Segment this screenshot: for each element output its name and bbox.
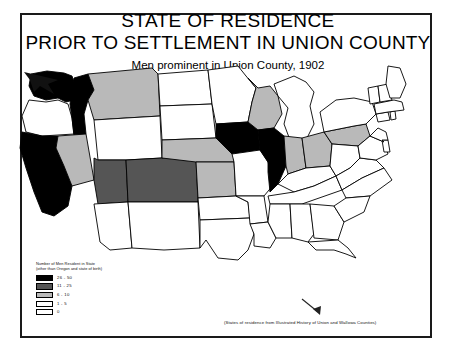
state-south-dakota[interactable] bbox=[160, 104, 216, 140]
legend-swatch bbox=[36, 309, 53, 315]
state-rhode-island[interactable] bbox=[390, 111, 396, 120]
state-florida[interactable] bbox=[308, 240, 356, 258]
legend-item[interactable]: 26 - 50 bbox=[36, 274, 166, 282]
state-new-mexico[interactable] bbox=[128, 202, 200, 250]
legend-range-label: 6 - 10 bbox=[57, 292, 70, 298]
state-utah[interactable] bbox=[94, 158, 128, 204]
state-arizona[interactable] bbox=[94, 202, 132, 250]
title-leader-arrow-northwest bbox=[24, 70, 64, 96]
legend-swatch bbox=[36, 275, 53, 281]
legend-item[interactable]: 6 - 10 bbox=[36, 291, 166, 299]
state-wyoming[interactable] bbox=[94, 116, 162, 160]
map-page: STATE OF RESIDENCE PRIOR TO SETTLEMENT I… bbox=[0, 0, 456, 356]
state-montana[interactable] bbox=[88, 68, 160, 120]
legend-item[interactable]: 0 bbox=[36, 308, 166, 316]
legend-swatch bbox=[36, 283, 53, 289]
legend-title-line-2: (other than Oregon and state of birth) bbox=[36, 267, 126, 272]
state-texas[interactable] bbox=[200, 218, 254, 260]
legend-range-label: 26 - 50 bbox=[57, 275, 72, 281]
legend-swatch bbox=[36, 292, 53, 298]
source-credit: (States of residence from Illustrated Hi… bbox=[224, 320, 376, 326]
state-maine[interactable] bbox=[386, 66, 406, 98]
legend-range-label: 0 bbox=[57, 309, 60, 315]
legend-item[interactable]: 11 - 25 bbox=[36, 282, 166, 290]
legend-range-label: 11 - 25 bbox=[57, 283, 72, 289]
map-legend: Number of Men Resident in State (other t… bbox=[36, 262, 166, 317]
legend-item[interactable]: 1 - 5 bbox=[36, 300, 166, 308]
legend-range-label: 1 - 5 bbox=[57, 301, 67, 307]
state-minnesota[interactable] bbox=[208, 66, 256, 124]
state-oregon[interactable] bbox=[22, 100, 74, 136]
state-colorado[interactable] bbox=[126, 158, 198, 202]
legend-swatch bbox=[36, 301, 53, 307]
credit-leader-arrow bbox=[300, 298, 326, 320]
state-north-dakota[interactable] bbox=[158, 70, 212, 106]
state-kansas[interactable] bbox=[196, 162, 236, 198]
state-new-york[interactable] bbox=[320, 98, 376, 132]
